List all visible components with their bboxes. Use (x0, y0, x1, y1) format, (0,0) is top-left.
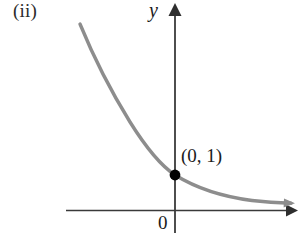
curve-arrowhead-icon (284, 199, 295, 208)
part-label: (ii) (13, 1, 37, 20)
exponential-curve (80, 24, 295, 207)
curve-path (80, 24, 291, 203)
y-axis (169, 3, 182, 233)
y-intercept-point-marker (170, 170, 181, 181)
origin-label: 0 (158, 213, 168, 232)
y-intercept-point-label: (0, 1) (181, 146, 222, 165)
figure-canvas (0, 0, 302, 233)
exponential-decay-figure: (ii) y (0, 1) 0 (0, 0, 302, 233)
x-axis-arrowhead-icon (286, 205, 298, 217)
y-axis-label: y (149, 0, 158, 20)
x-axis (66, 205, 298, 217)
y-axis-arrowhead-icon (169, 3, 182, 16)
